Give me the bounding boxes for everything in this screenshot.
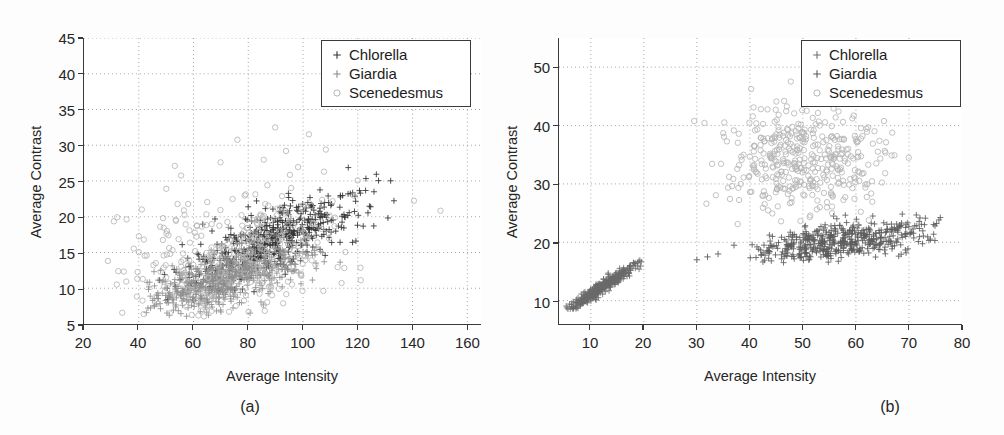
x-tick-label: 40 [130,334,147,351]
x-tick-label: 160 [455,334,480,351]
series-giardia [747,211,943,266]
x-axis-title-a: Average Intensity [226,368,338,384]
x-tick-mark [642,325,643,330]
x-tick-mark [908,325,909,330]
y-tick-label: 45 [35,30,75,47]
legend-b: ChlorellaGiardiaScenedesmus [801,40,961,107]
legend-label: Giardia [346,65,397,82]
legend-label: Scenedesmus [346,84,443,101]
x-tick-label: 70 [901,334,918,351]
series-chlorella [563,257,644,312]
legend-entry-scenedesmus: Scenedesmus [328,83,460,102]
y-tick-mark [78,37,83,38]
legend-entry-giardia: Giardia [328,64,460,83]
y-tick-mark [553,67,558,68]
y-tick-label: 50 [510,59,550,76]
panel-b: 1020304050 1020304050607080 Average Inte… [502,0,1004,435]
x-tick-label: 30 [688,334,705,351]
x-tick-mark [192,325,193,330]
y-tick-label: 40 [35,65,75,82]
y-tick-mark [553,242,558,243]
x-tick-mark [412,325,413,330]
legend-label: Chlorella [346,46,407,63]
x-tick-mark [961,325,962,330]
x-axis-title-b: Average Intensity [704,368,816,384]
y-tick-label: 10 [510,293,550,310]
outlier-points [694,242,738,263]
y-tick-mark [78,217,83,218]
legend-label: Scenedesmus [826,84,923,101]
y-tick-mark [78,181,83,182]
y-tick-mark [78,145,83,146]
legend-label: Giardia [826,65,877,82]
y-tick-label: 10 [35,281,75,298]
x-tick-mark [802,325,803,330]
y-tick-mark [78,289,83,290]
x-tick-mark [247,325,248,330]
x-tick-label: 120 [345,334,370,351]
y-tick-mark [553,301,558,302]
x-tick-label: 20 [635,334,652,351]
figure-container: 51015202530354045 20406080100120140160 A… [0,0,1004,435]
x-tick-label: 140 [400,334,425,351]
legend-a: ChlorellaGiardiaScenedesmus [321,40,471,107]
x-tick-mark [82,325,83,330]
x-tick-mark [357,325,358,330]
x-tick-label: 80 [954,334,971,351]
legend-label: Chlorella [826,46,887,63]
legend-entry-chlorella: Chlorella [808,45,950,64]
x-tick-mark [467,325,468,330]
legend-entry-giardia: Giardia [808,64,950,83]
legend-entry-chlorella: Chlorella [328,45,460,64]
y-tick-label: 15 [35,245,75,262]
x-tick-label: 100 [290,334,315,351]
x-tick-label: 50 [794,334,811,351]
legend-plus-icon [328,67,346,81]
y-tick-mark [553,125,558,126]
x-tick-mark [589,325,590,330]
x-tick-label: 80 [239,334,256,351]
x-tick-label: 20 [75,334,92,351]
panel-caption-b: (b) [880,398,900,416]
panel-a: 51015202530354045 20406080100120140160 A… [0,0,502,435]
x-tick-label: 60 [185,334,202,351]
panel-caption-a: (a) [240,398,260,416]
x-tick-label: 60 [847,334,864,351]
legend-circle-icon [808,86,826,100]
y-tick-mark [553,184,558,185]
series-scenedesmus [105,125,443,319]
x-tick-mark [749,325,750,330]
x-tick-mark [302,325,303,330]
legend-circle-icon [328,86,346,100]
y-tick-mark [78,73,83,74]
x-tick-mark [696,325,697,330]
x-tick-mark [137,325,138,330]
x-tick-mark [855,325,856,330]
y-tick-mark [78,253,83,254]
legend-plus-icon [808,67,826,81]
x-tick-label: 40 [741,334,758,351]
legend-entry-scenedesmus: Scenedesmus [808,83,950,102]
y-tick-label: 35 [35,101,75,118]
y-tick-mark [78,109,83,110]
y-axis-title-b: Average Contrast [504,126,520,239]
y-tick-label: 5 [35,317,75,334]
legend-plus-icon [328,48,346,62]
x-tick-label: 10 [582,334,599,351]
y-axis-title-a: Average Contrast [28,126,44,239]
legend-plus-icon [808,48,826,62]
